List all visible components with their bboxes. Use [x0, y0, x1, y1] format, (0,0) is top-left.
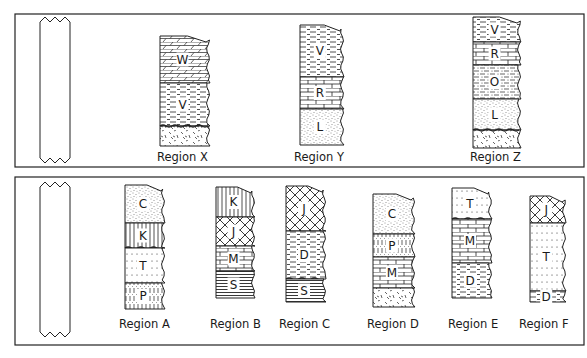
rock-layer-letter: L	[316, 120, 323, 134]
blank-column	[40, 182, 70, 337]
blank-column	[40, 17, 70, 163]
rock-layer-letter: C	[388, 207, 396, 221]
column-region-c: JDSRegion C	[279, 186, 330, 331]
layer-m: M	[373, 257, 415, 288]
rock-layer-letter: S	[300, 284, 308, 298]
region-label: Region C	[279, 317, 330, 331]
layer-r: R	[300, 77, 344, 109]
layer-l: L	[300, 109, 344, 145]
region-label: Region E	[448, 317, 498, 331]
igneous-pattern	[473, 130, 521, 148]
column-region-e: TMDRegion E	[448, 188, 498, 331]
rock-layer-letter: P	[139, 289, 146, 303]
region-label: Region Z	[470, 150, 521, 164]
break-bottom-icon	[40, 332, 70, 337]
rock-layer-letter: T	[138, 259, 147, 273]
rock-layer-letter: D	[299, 248, 308, 262]
rock-layer-letter: J	[543, 203, 548, 217]
break-top-icon	[40, 17, 70, 22]
layer-d: D	[530, 290, 566, 304]
region-label: Region F	[519, 317, 569, 331]
igneous-pattern	[160, 126, 210, 146]
rock-correlation-diagram: WVRegion XVRLRegion YVROLRegion ZCKTPReg…	[0, 0, 587, 358]
column-region-f: JTDRegion F	[519, 196, 569, 331]
layer-bedrock	[473, 129, 521, 148]
layer-t: T	[452, 188, 492, 220]
rock-layer-letter: R	[316, 86, 324, 100]
break-bottom-icon	[40, 158, 70, 163]
column-region-b: KJMSRegion B	[210, 187, 261, 331]
rock-layer-letter: S	[230, 278, 238, 292]
rock-layer-letter: V	[490, 23, 499, 37]
layer-k: K	[125, 223, 165, 249]
layer-v: V	[473, 17, 521, 42]
rock-layer-letter: J	[301, 202, 306, 216]
rock-layer-letter: R	[490, 47, 498, 61]
panel-top: WVRegion XVRLRegion YVROLRegion Z	[15, 14, 584, 167]
rock-layer-letter: C	[139, 197, 147, 211]
rock-layer-letter: L	[491, 108, 498, 122]
layer-r: R	[473, 42, 521, 65]
layer-bedrock	[373, 288, 415, 307]
rock-layer-letter: K	[230, 195, 239, 209]
layer-j: J	[286, 186, 326, 231]
layer-m: M	[452, 219, 492, 263]
rock-layer-letter: V	[178, 98, 187, 112]
rock-layer-letter: V	[316, 44, 325, 58]
rock-layer-letter: M	[228, 252, 238, 266]
layer-s: S	[216, 271, 255, 298]
igneous-pattern	[373, 288, 415, 307]
rock-layer-letter: D	[465, 274, 474, 288]
layer-t: T	[125, 248, 165, 283]
region-label: Region B	[210, 317, 261, 331]
layer-l: L	[473, 99, 521, 130]
column-region-z: VROLRegion Z	[470, 17, 521, 164]
layer-p: P	[373, 234, 415, 257]
layer-o: O	[473, 65, 521, 99]
layer-k: K	[216, 187, 255, 217]
layer-j: J	[530, 196, 566, 223]
layer-v: V	[160, 83, 210, 126]
layer-s: S	[286, 279, 326, 302]
layer-c: C	[125, 185, 165, 223]
rock-layer-letter: M	[387, 266, 397, 280]
layer-j: J	[216, 217, 255, 246]
rock-layer-letter: W	[177, 53, 189, 67]
rock-layer-letter: T	[542, 250, 551, 264]
layer-d: D	[452, 263, 492, 298]
column-region-y: VRLRegion Y	[294, 25, 345, 164]
rock-layer-letter: O	[490, 75, 499, 89]
region-label: Region D	[367, 317, 419, 331]
layer-bedrock	[160, 125, 210, 146]
region-label: Region A	[119, 317, 170, 331]
layer-v: V	[300, 25, 344, 77]
break-top-icon	[40, 182, 70, 187]
column-region-a: CKTPRegion A	[119, 185, 170, 331]
layer-t: T	[530, 223, 566, 291]
column-region-x: WVRegion X	[157, 36, 210, 164]
region-label: Region Y	[294, 150, 345, 164]
rock-layer-letter: D	[542, 290, 551, 304]
rock-layer-letter: T	[465, 197, 474, 211]
region-label: Region X	[157, 150, 208, 164]
layer-c: C	[373, 194, 415, 234]
rock-layer-letter: K	[139, 229, 148, 243]
column-region-d: CPMRegion D	[367, 194, 419, 331]
panel-bottom: CKTPRegion AKJMSRegion BJDSRegion CCPMRe…	[15, 177, 584, 345]
layer-p: P	[125, 283, 165, 309]
layer-w: W	[160, 36, 210, 83]
rock-layer-letter: J	[231, 225, 236, 239]
rock-layer-letter: M	[465, 234, 475, 248]
rock-layer-letter: P	[388, 239, 395, 253]
layer-m: M	[216, 246, 255, 271]
layer-d: D	[286, 231, 326, 280]
